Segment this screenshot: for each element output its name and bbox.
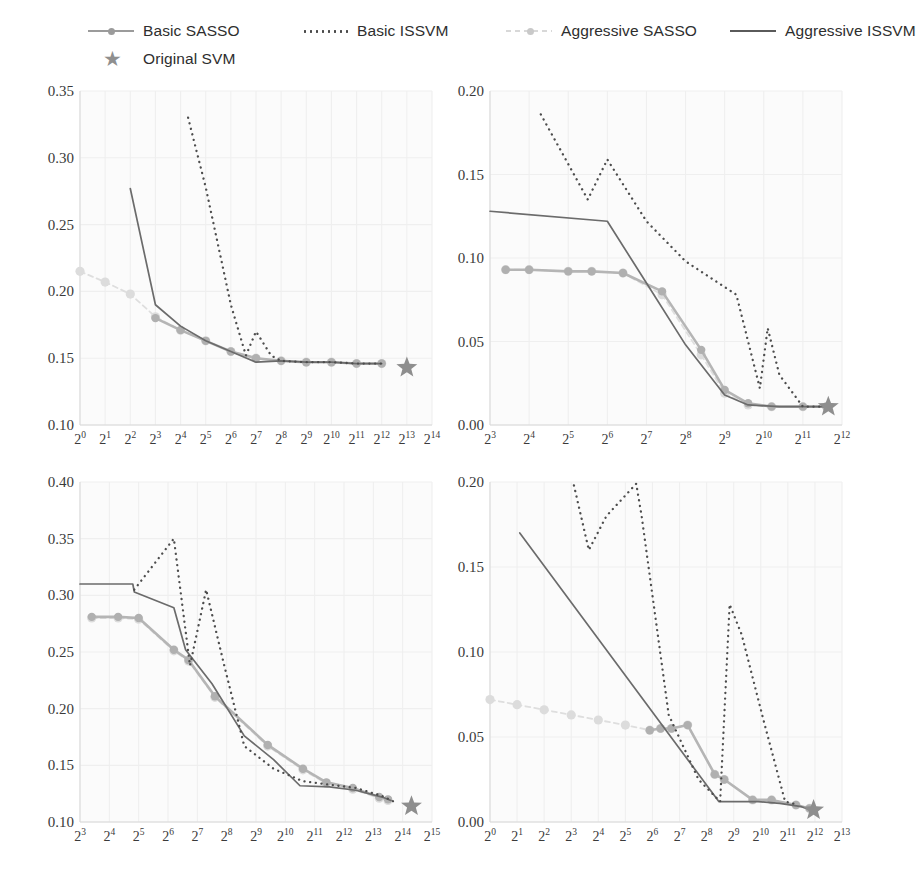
y-tick-label: 0.05 [458, 729, 484, 746]
x-tick-label: 27 [641, 430, 653, 448]
x-tick-label: 215 [424, 827, 441, 845]
x-tick-label: 25 [200, 430, 212, 448]
x-tick-label: 211 [795, 430, 811, 448]
basic-sasso-line-marker-icon [88, 24, 134, 38]
y-tick-label: 0.20 [458, 474, 484, 491]
subplot-bottom-right: 0.000.050.100.150.2020212223242526272829… [490, 482, 842, 822]
x-tick-label: 27 [191, 827, 203, 845]
legend-label-basic-issvm: Basic ISSVM [357, 22, 449, 40]
y-tick-label: 0.15 [458, 166, 484, 183]
x-tick-label: 26 [647, 827, 659, 845]
x-tick-label: 210 [323, 430, 340, 448]
y-tick-label: 0.15 [48, 757, 74, 774]
y-tick-label: 0.05 [458, 333, 484, 350]
x-tick-label: 28 [701, 827, 713, 845]
subplot-top-left: 0.100.150.200.250.300.352021222324252627… [80, 91, 432, 425]
y-tick-label: 0.15 [48, 350, 74, 367]
x-tick-label: 211 [348, 430, 364, 448]
x-tick-label: 213 [399, 430, 416, 448]
y-tick-label: 0.35 [48, 83, 74, 100]
y-tick-label: 0.10 [48, 417, 74, 434]
x-tick-label: 29 [728, 827, 740, 845]
x-tick-label: 214 [424, 430, 441, 448]
x-tick-label: 24 [175, 430, 187, 448]
x-tick-label: 23 [150, 430, 162, 448]
y-tick-label: 0.20 [458, 83, 484, 100]
x-tick-label: 212 [373, 430, 390, 448]
x-tick-label: 213 [834, 827, 851, 845]
x-tick-label: 213 [365, 827, 382, 845]
legend-item-basic-issvm: Basic ISSVM [302, 22, 449, 40]
x-tick-label: 21 [99, 430, 111, 448]
x-tick-label: 212 [336, 827, 353, 845]
x-tick-label: 210 [756, 430, 773, 448]
legend-item-aggressive-issvm: Aggressive ISSVM [730, 22, 916, 40]
y-tick-label: 0.35 [48, 530, 74, 547]
x-tick-label: 26 [162, 827, 174, 845]
aggressive-issvm-solid-line-icon [730, 24, 776, 38]
original-svm-star-icon: ★ [88, 52, 134, 66]
x-tick-label: 28 [275, 430, 287, 448]
y-tick-label: 0.00 [458, 417, 484, 434]
legend-item-basic-sasso: Basic SASSO [88, 22, 240, 40]
x-tick-label: 28 [680, 430, 692, 448]
x-tick-label: 23 [484, 430, 496, 448]
x-tick-label: 27 [250, 430, 262, 448]
x-tick-label: 23 [565, 827, 577, 845]
x-tick-label: 26 [225, 430, 237, 448]
x-tick-label: 26 [601, 430, 613, 448]
y-tick-label: 0.25 [48, 644, 74, 661]
x-tick-label: 23 [74, 827, 86, 845]
y-tick-label: 0.40 [48, 474, 74, 491]
legend-label-original-svm: Original SVM [143, 50, 236, 68]
x-tick-label: 29 [300, 430, 312, 448]
x-tick-label: 27 [674, 827, 686, 845]
x-tick-label: 25 [620, 827, 632, 845]
x-tick-label: 24 [592, 827, 604, 845]
y-tick-label: 0.10 [458, 644, 484, 661]
y-tick-label: 0.20 [48, 700, 74, 717]
x-tick-label: 211 [307, 827, 323, 845]
x-tick-label: 212 [834, 430, 851, 448]
y-tick-label: 0.15 [458, 559, 484, 576]
x-tick-label: 25 [133, 827, 145, 845]
x-tick-label: 210 [277, 827, 294, 845]
y-tick-label: 0.10 [48, 814, 74, 831]
subplot-top-right: 0.000.050.100.150.2023242526272829210211… [490, 91, 842, 425]
legend-item-original-svm: ★ Original SVM [88, 50, 236, 68]
legend-item-aggressive-sasso: Aggressive SASSO [506, 22, 697, 40]
x-tick-label: 29 [250, 827, 262, 845]
x-tick-label: 20 [484, 827, 496, 845]
y-tick-label: 0.20 [48, 283, 74, 300]
x-tick-label: 22 [124, 430, 136, 448]
y-tick-label: 0.00 [458, 814, 484, 831]
y-tick-label: 0.25 [48, 216, 74, 233]
x-tick-label: 29 [719, 430, 731, 448]
x-tick-label: 24 [523, 430, 535, 448]
x-tick-label: 211 [780, 827, 796, 845]
basic-issvm-dotted-line-icon [302, 24, 348, 38]
legend: Basic SASSO Basic ISSVM Aggressive SASSO… [0, 22, 874, 80]
x-tick-label: 214 [394, 827, 411, 845]
x-tick-label: 20 [74, 430, 86, 448]
y-tick-label: 0.10 [458, 250, 484, 267]
x-tick-label: 24 [103, 827, 115, 845]
legend-label-aggressive-sasso: Aggressive SASSO [561, 22, 697, 40]
y-tick-label: 0.30 [48, 587, 74, 604]
x-tick-label: 22 [538, 827, 550, 845]
x-tick-label: 212 [807, 827, 824, 845]
y-tick-label: 0.30 [48, 149, 74, 166]
x-tick-label: 28 [221, 827, 233, 845]
legend-label-aggressive-issvm: Aggressive ISSVM [785, 22, 916, 40]
x-tick-label: 210 [753, 827, 770, 845]
x-tick-label: 25 [562, 430, 574, 448]
x-tick-label: 21 [511, 827, 523, 845]
subplot-bottom-left: 0.100.150.200.250.300.350.40232425262728… [80, 482, 432, 822]
aggressive-sasso-faint-line-icon [506, 24, 552, 38]
legend-label-basic-sasso: Basic SASSO [143, 22, 240, 40]
